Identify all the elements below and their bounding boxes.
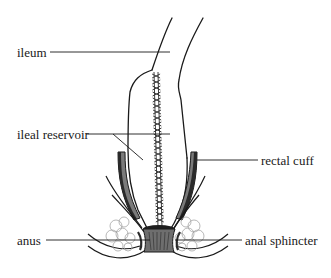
ileum-left-wall [152, 18, 172, 70]
label-anus: anus [17, 234, 41, 247]
label-ileal-reservoir: ileal reservoir [17, 128, 89, 141]
label-anal-sphincter: anal sphincter [245, 234, 318, 247]
ileum-right-wall [178, 18, 203, 158]
label-rectal-cuff: rectal cuff [261, 154, 314, 167]
label-ileum: ileum [17, 46, 47, 59]
suture-line [152, 72, 164, 228]
anal-sphincter-shape [138, 225, 180, 252]
rectal-cuff-left [118, 152, 140, 220]
fat-left [106, 217, 135, 251]
